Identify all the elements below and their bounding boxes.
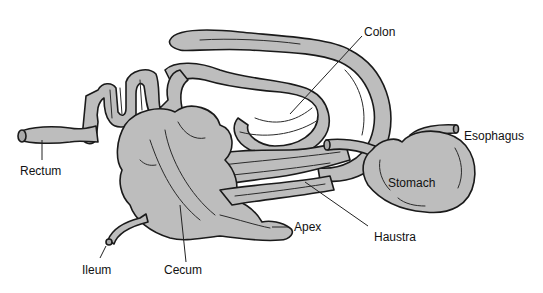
- label-haustra: Haustra: [374, 230, 416, 244]
- label-ileum: Ileum: [82, 263, 111, 277]
- stomach: [363, 131, 475, 212]
- label-apex: Apex: [294, 220, 321, 234]
- leader-ileum: [100, 246, 106, 258]
- label-cecum: Cecum: [164, 263, 202, 277]
- rectum: [18, 126, 98, 143]
- label-rectum: Rectum: [20, 164, 61, 178]
- large-intestine-diagram: Colon Esophagus Rectum Stomach Apex Haus…: [0, 0, 543, 293]
- label-colon: Colon: [364, 25, 395, 39]
- label-esophagus: Esophagus: [464, 129, 524, 143]
- ileum: [106, 214, 148, 245]
- label-stomach: Stomach: [388, 176, 435, 190]
